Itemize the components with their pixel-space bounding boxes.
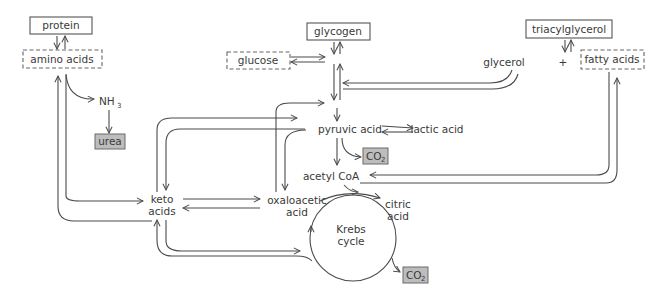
protein-node: protein: [30, 17, 92, 34]
glucose-node: glucose: [227, 52, 290, 69]
arrow-krebs-to-co2: [392, 258, 400, 272]
metabolism-diagram: protein amino acids NH 3 urea glycogen g…: [0, 0, 667, 299]
arrow-amino-to-nh3: [66, 74, 94, 99]
arrow-fatty-to-acetyl: [370, 72, 609, 175]
arrow-krebs-to-keto: [157, 220, 312, 261]
amino-acids-label: amino acids: [30, 53, 93, 65]
glucose-label: glucose: [238, 54, 278, 66]
acetyl-coa-label: acetyl CoA: [303, 170, 360, 182]
co2-label: CO: [366, 150, 382, 162]
citric-acid-label-line1: citric: [385, 198, 411, 210]
arrow-acetyl-to-fatty: [360, 78, 617, 183]
arrow-keto-to-krebs: [166, 220, 300, 251]
amino-acids-node: amino acids: [23, 50, 102, 68]
oxaloacetic-acid-label-line1: oxaloacetic: [267, 194, 327, 206]
co2-subscript: 2: [381, 156, 385, 164]
triacylglycerol-node: triacylglycerol: [526, 20, 612, 38]
co2-node-krebs: CO 2: [403, 267, 428, 283]
arrow-pyruvate-to-co2: [342, 138, 361, 157]
arrow-pyruvate-to-lactic: [382, 126, 413, 128]
nh3-label: NH: [99, 95, 115, 107]
glycogen-label: glycogen: [314, 25, 362, 37]
pyruvic-acid-label: pyruvic acid: [318, 123, 382, 135]
arrow-keto-to-amino-base: [58, 206, 152, 221]
glycerol-label: glycerol: [483, 56, 524, 68]
krebs-cycle-label-line2: cycle: [337, 235, 364, 247]
co2-node-pyruvate: CO 2: [363, 148, 388, 164]
oxaloacetic-acid-label-line2: acid: [286, 206, 308, 218]
glycogen-node: glycogen: [307, 23, 370, 40]
co2-label: CO: [406, 269, 422, 281]
arrow-acetyl-into-krebs: [344, 185, 358, 192]
urea-label: urea: [98, 135, 122, 147]
keto-acids-label-line1: keto: [151, 193, 174, 205]
triacylglycerol-label: triacylglycerol: [532, 23, 606, 35]
arrow-pyruvate-to-keto: [166, 129, 305, 190]
nh3-subscript: 3: [117, 102, 121, 110]
plus-sign: +: [559, 56, 568, 68]
arrow-glycerol-to-glucose: [343, 70, 512, 83]
protein-label: protein: [42, 19, 79, 31]
arrow-glucose-to-glycerol: [343, 74, 518, 89]
lactic-acid-label: lactic acid: [410, 123, 463, 135]
nh3-node: NH 3: [99, 95, 121, 110]
co2-subscript: 2: [421, 275, 425, 283]
krebs-cycle-label-line1: Krebs: [336, 223, 366, 235]
fatty-acids-label: fatty acids: [584, 53, 639, 65]
keto-acids-label-line2: acids: [148, 205, 175, 217]
urea-node: urea: [95, 134, 125, 149]
fatty-acids-node: fatty acids: [581, 50, 644, 69]
